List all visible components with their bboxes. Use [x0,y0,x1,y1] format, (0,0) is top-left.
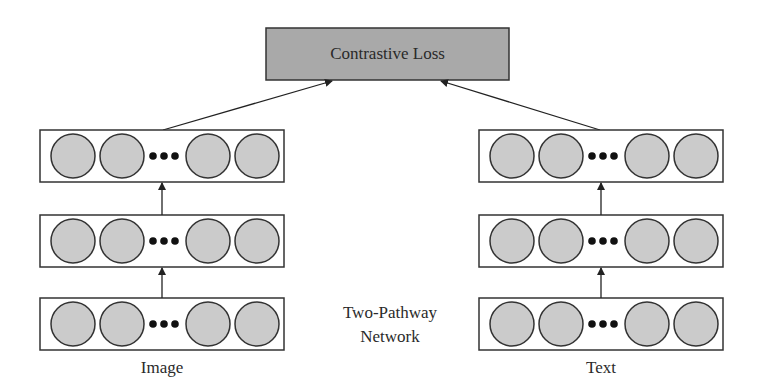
image-pathway-label: Image [102,359,222,376]
network-title-line-2: Network [310,328,470,345]
text-layer-3 [479,130,723,182]
arrow-text-to-loss [441,81,600,130]
text-layer-1 [479,298,723,350]
contrastive-loss-label: Contrastive Loss [266,45,509,62]
arrow-image-to-loss [163,81,332,130]
network-title-line-1: Two-Pathway [310,304,470,321]
text-pathway [479,130,723,350]
image-layer-1 [40,298,284,350]
image-layer-2 [40,215,284,267]
text-pathway-label: Text [541,359,661,376]
image-layer-3 [40,130,284,182]
image-pathway [40,130,284,350]
text-layer-2 [479,215,723,267]
